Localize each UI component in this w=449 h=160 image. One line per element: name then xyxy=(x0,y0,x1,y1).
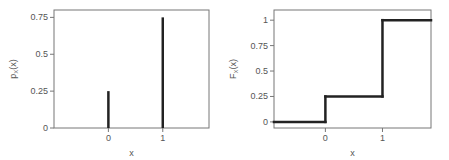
cdf-y-tick-label: 0.75 xyxy=(250,41,268,51)
cdf-y-tick-label: 0.25 xyxy=(250,91,268,101)
pmf-y-axis-title-tail: (x) xyxy=(8,59,18,70)
pmf-y-tick-label: 0.5 xyxy=(35,49,48,59)
cdf-x-tick-label: 0 xyxy=(323,133,328,143)
pmf-y-axis-title: pX(x) xyxy=(8,59,19,79)
cdf-plot-frame xyxy=(274,10,431,128)
pmf-y-tick-label: 0 xyxy=(43,123,48,133)
pmf-x-tick-label: 0 xyxy=(106,133,111,143)
cdf-x-axis-title: x xyxy=(350,148,355,158)
pmf-x-axis: 01 xyxy=(106,128,165,143)
cdf-y-tick-label: 0.5 xyxy=(255,66,268,76)
figure: 00.250.50.75 01 x pX(x) 00.250.50.751 01… xyxy=(0,0,449,160)
cdf-x-tick-label: 1 xyxy=(380,133,385,143)
cdf-chart: 00.250.50.751 01 x FX(x) xyxy=(228,10,431,158)
pmf-y-axis: 00.250.50.75 xyxy=(30,12,54,133)
cdf-y-axis-title-tail: (x) xyxy=(228,59,238,70)
pmf-x-tick-label: 1 xyxy=(160,133,165,143)
pmf-y-tick-label: 0.25 xyxy=(30,86,48,96)
pmf-stems xyxy=(108,17,162,128)
pmf-y-tick-label: 0.75 xyxy=(30,12,48,22)
pmf-chart: 00.250.50.75 01 x pX(x) xyxy=(8,10,209,158)
cdf-step-line xyxy=(274,20,431,122)
cdf-y-tick-label: 0 xyxy=(263,117,268,127)
cdf-y-axis-title: FX(x) xyxy=(228,59,239,79)
cdf-y-tick-label: 1 xyxy=(263,15,268,25)
pmf-plot-frame xyxy=(54,10,209,128)
cdf-y-axis: 00.250.50.751 xyxy=(250,15,274,127)
pmf-x-axis-title: x xyxy=(129,148,134,158)
cdf-x-axis: 01 xyxy=(323,128,385,143)
